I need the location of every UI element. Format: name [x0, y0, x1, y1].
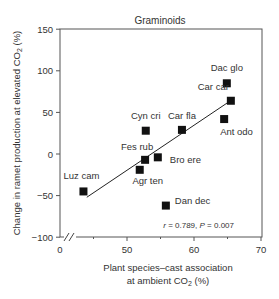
x-axis-label-line2: at ambient CO2 (%): [127, 275, 210, 287]
y-tick-label: −50: [37, 190, 53, 201]
data-point-label: Luz cam: [63, 170, 99, 181]
x-axis-label: Plant species–cast association: [103, 262, 232, 273]
axis-break-marks: [64, 233, 76, 241]
data-point-marker: [220, 115, 228, 123]
y-tick-label: 50: [42, 107, 53, 118]
x-tick-label: 60: [189, 244, 200, 255]
data-point-marker: [154, 153, 162, 161]
data-point-label: Ant odo: [220, 126, 253, 137]
data-point-marker: [162, 202, 170, 210]
data-point-label: Dac glo: [211, 62, 243, 73]
data-point-marker: [141, 156, 149, 164]
data-point-label: Cyn cri: [131, 110, 161, 121]
y-axis-label: Change in ramet production at elevated C…: [11, 31, 23, 236]
chart-title: Graminoids: [134, 15, 185, 26]
y-tick-label: −100: [32, 232, 53, 243]
data-point-marker: [178, 126, 186, 134]
data-point-marker: [142, 127, 150, 135]
data-point-label: Dan dec: [175, 195, 211, 206]
x-tick-label: 50: [122, 244, 133, 255]
x-tick-label: 70: [256, 244, 267, 255]
scatter-chart: Graminoids 150100500−50−100 0506070 Luz …: [0, 0, 279, 299]
y-axis: 150100500−50−100: [32, 24, 60, 243]
data-points: Luz camAgr tenFes rubBro ereCyn criCar f…: [63, 62, 252, 209]
data-point-marker: [227, 97, 235, 105]
y-tick-label: 100: [37, 65, 53, 76]
x-tick-label: 0: [57, 244, 62, 255]
y-tick-label: 0: [48, 149, 53, 160]
data-point-label: Car car: [198, 81, 229, 92]
y-tick-label: 150: [37, 24, 53, 35]
data-point-label: Fes rub: [121, 141, 153, 152]
x-axis: 0506070: [57, 237, 266, 255]
data-point-marker: [136, 166, 144, 174]
data-point-label: Car fla: [168, 110, 197, 121]
stats-annotation: r = 0.789, P = 0.007: [163, 221, 234, 230]
data-point-label: Bro ere: [170, 154, 201, 165]
data-point-label: Agr ten: [132, 175, 163, 186]
data-point-marker: [79, 187, 87, 195]
